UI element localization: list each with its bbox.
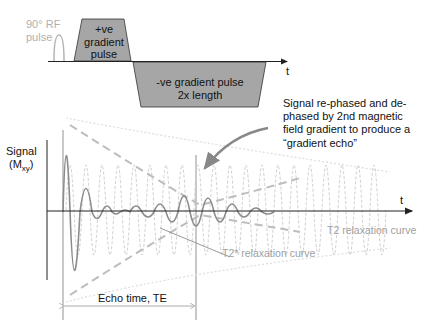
echo-time-label: Echo time, TE — [98, 292, 167, 305]
t2-star-label: T2* relaxation curve — [222, 247, 315, 259]
t2-label: T2 relaxation curve — [327, 224, 416, 236]
positive-gradient-label: +ve gradient pulse — [80, 23, 128, 61]
diagram-canvas — [0, 0, 432, 333]
rf-pulse-label: 90° RF pulse — [26, 18, 60, 43]
signal-y-label: Signal (Mxy) — [6, 145, 37, 173]
signal-time-label: t — [400, 194, 403, 207]
echo-annotation: Signal re-phased and de- phased by 2nd m… — [283, 97, 410, 150]
negative-gradient-label: -ve gradient pulse 2x length — [145, 76, 255, 101]
pulse-time-label: t — [286, 65, 289, 78]
